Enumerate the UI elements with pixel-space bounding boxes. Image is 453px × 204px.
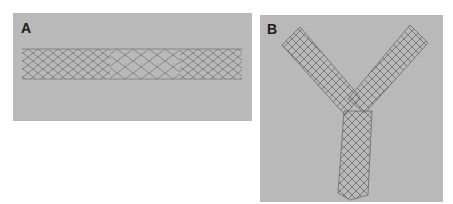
panel-b: B — [260, 15, 443, 202]
panel-a: A — [13, 13, 252, 121]
straight-stent-image — [13, 13, 252, 121]
bifurcated-stent-image — [260, 15, 443, 202]
